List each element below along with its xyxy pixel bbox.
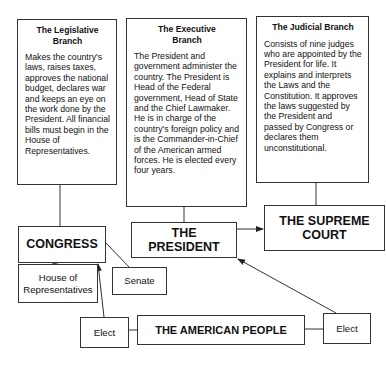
senate-label: Senate [124,275,154,287]
senate-box: Senate [112,267,167,295]
supreme-court-box: THE SUPREME COURT [264,205,385,251]
american-people-box: THE AMERICAN PEOPLE [137,315,305,345]
elect-right-label: Elect [336,323,357,335]
president-box: THE PRESIDENT [131,222,237,258]
legislative-branch-box: The Legislative Branch Makes the country… [17,19,117,185]
american-people-label: THE AMERICAN PEOPLE [155,323,287,338]
arrow-elect-president [238,259,336,313]
congress-label: CONGRESS [26,237,98,252]
legislative-branch-description: Makes the country's laws, raises taxes, … [25,52,110,156]
judicial-branch-title: The Judicial Branch [264,22,362,33]
line-congress-senate [105,242,129,267]
house-of-representatives-box: House of Representatives [18,264,98,303]
arrow-elect-congress [98,264,104,317]
legislative-branch-title: The Legislative Branch [25,25,110,46]
house-of-representatives-label: House of Representatives [22,272,94,296]
judicial-branch-description: Consists of nine judges who are appointe… [264,39,362,153]
executive-branch-box: The Executive Branch The President and g… [126,18,247,207]
judicial-branch-box: The Judicial Branch Consists of nine jud… [256,16,369,183]
elect-right-box: Elect [323,313,371,344]
congress-box: CONGRESS [18,226,106,263]
executive-branch-title: The Executive Branch [134,24,240,45]
supreme-court-label: THE SUPREME COURT [271,214,378,243]
elect-left-label: Elect [94,327,115,339]
executive-branch-description: The President and government administer … [134,51,240,176]
president-label: THE PRESIDENT [146,226,222,255]
elect-left-box: Elect [80,317,129,348]
